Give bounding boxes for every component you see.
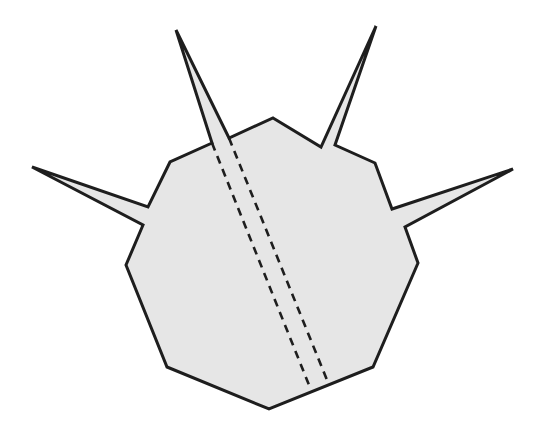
polygon-body-with-spikes (32, 26, 513, 409)
spiked-polygon-diagram (0, 0, 545, 428)
